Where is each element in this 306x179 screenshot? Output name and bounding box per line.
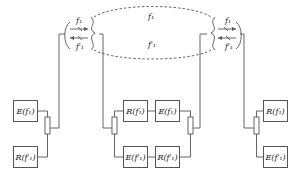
left-emitter-f1: E(f₁): [13, 100, 38, 122]
radio-link-diagram: [0, 0, 306, 179]
mid-right-top-wire: [180, 111, 191, 117]
right-antenna-rx-label: f′₁: [225, 42, 233, 51]
right-receiver-f1: R(f₁): [263, 100, 288, 122]
mid-receiver-f1: R(f₁): [123, 100, 148, 122]
left-antenna-bracket-left: [65, 22, 70, 49]
left-top-wire: [38, 111, 48, 117]
mid-emitter-f1p: E(f′₁): [123, 146, 148, 168]
left-antenna-tx-label: f₁: [76, 16, 82, 25]
left-receiver-f1p: R(f′₁): [13, 146, 38, 168]
mid-left-bottom-wire: [115, 134, 124, 157]
mid-receiver-f1p: R(f′₁): [155, 146, 180, 168]
link-lower-dashed-arc: [94, 50, 211, 59]
mid-left-combiner: [112, 117, 117, 134]
link-upper-label: f₁: [148, 12, 154, 21]
mid-emitter-f1: E(f₁): [155, 100, 180, 122]
link-lower-label: f′₁: [148, 40, 156, 49]
left-bottom-wire: [38, 134, 48, 157]
left-antenna-bracket-right: [91, 17, 95, 50]
mid-right-bottom-wire: [180, 134, 191, 157]
mid-left-top-wire: [115, 111, 124, 117]
left-feed-line: [50, 34, 65, 128]
right-antenna-bracket-left: [211, 17, 215, 50]
right-feed-line: [240, 34, 254, 128]
right-combiner: [254, 117, 259, 134]
right-emitter-f1p: E(f′₁): [263, 146, 288, 168]
right-antenna-bracket-right: [236, 22, 241, 49]
right-antenna-tx-label: f₁: [225, 16, 231, 25]
left-antenna-rx-label: f′₁: [76, 42, 84, 51]
mid-right-combiner: [188, 117, 193, 134]
left-combiner: [45, 117, 50, 134]
right-mid-feed-line: [193, 34, 207, 128]
